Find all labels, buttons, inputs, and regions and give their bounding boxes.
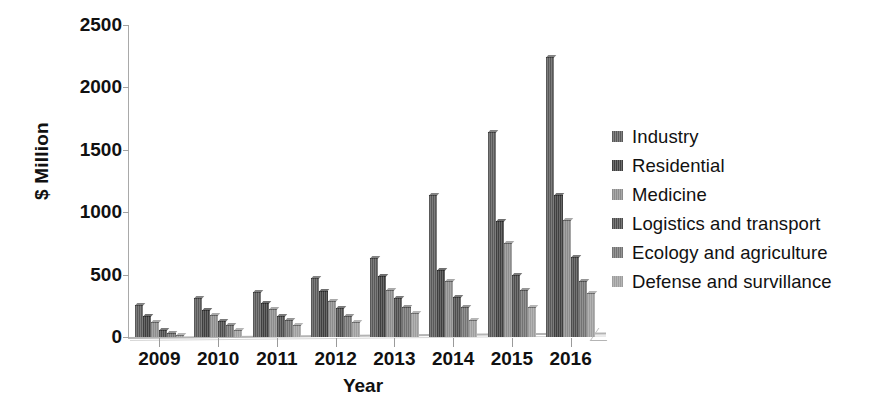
bar-face bbox=[411, 313, 419, 337]
bar-face bbox=[587, 293, 595, 337]
bar-group-2011 bbox=[253, 25, 302, 337]
legend-item: Defense and survillance bbox=[612, 267, 887, 296]
bar bbox=[394, 298, 402, 337]
x-tick-label: 2011 bbox=[256, 348, 297, 370]
legend-swatch-icon bbox=[612, 160, 623, 171]
bar bbox=[311, 278, 319, 337]
bar bbox=[378, 276, 386, 337]
bar-face bbox=[226, 325, 234, 337]
x-axis-title: Year bbox=[128, 375, 598, 397]
bar bbox=[402, 307, 410, 337]
bar-face bbox=[571, 257, 579, 337]
legend-swatch-icon bbox=[612, 218, 623, 229]
bar bbox=[429, 195, 437, 337]
x-tick-label: 2013 bbox=[373, 348, 415, 370]
y-tick-mark bbox=[123, 87, 129, 88]
bar-face bbox=[344, 316, 352, 337]
y-tick-mark bbox=[123, 150, 129, 151]
bar-face bbox=[445, 281, 453, 337]
bar-face bbox=[135, 305, 143, 337]
bar bbox=[437, 270, 445, 337]
x-tick-mark bbox=[277, 338, 278, 347]
bar-face bbox=[488, 132, 496, 337]
y-tick-mark bbox=[123, 212, 129, 213]
x-tick-label: 2009 bbox=[138, 348, 180, 370]
bar-group-2009 bbox=[135, 25, 184, 337]
bar bbox=[226, 325, 234, 337]
x-tick-mark bbox=[512, 338, 513, 347]
legend-swatch-icon bbox=[612, 276, 623, 287]
bar bbox=[135, 305, 143, 337]
bar bbox=[554, 195, 562, 337]
bar-face bbox=[461, 307, 469, 337]
y-tick-mark bbox=[123, 275, 129, 276]
bar-group-2014 bbox=[429, 25, 478, 337]
bar bbox=[234, 330, 242, 337]
bar bbox=[344, 316, 352, 337]
bar-group-2015 bbox=[488, 25, 537, 337]
bar bbox=[352, 322, 360, 337]
bar-face bbox=[453, 297, 461, 337]
bar bbox=[210, 315, 218, 337]
bar-face bbox=[336, 308, 344, 337]
bar bbox=[370, 258, 378, 337]
legend-item: Logistics and transport bbox=[612, 209, 887, 238]
bar-face bbox=[437, 270, 445, 337]
bar-face bbox=[328, 301, 336, 337]
bar-face bbox=[370, 258, 378, 337]
x-tick-mark bbox=[336, 338, 337, 347]
x-tick-label: 2012 bbox=[314, 348, 356, 370]
bar-face bbox=[528, 307, 536, 337]
plot-area bbox=[128, 25, 598, 337]
legend-label: Medicine bbox=[632, 184, 707, 206]
bar-face bbox=[261, 303, 269, 337]
bar-face bbox=[293, 325, 301, 337]
bar-group-2016 bbox=[546, 25, 595, 337]
bar-face bbox=[386, 290, 394, 337]
bar bbox=[386, 290, 394, 337]
bar-face bbox=[554, 195, 562, 337]
bar bbox=[546, 57, 554, 337]
bar bbox=[194, 298, 202, 337]
bar bbox=[277, 316, 285, 337]
y-axis-tick-labels: 05001000150020002500 bbox=[0, 0, 122, 415]
bar-face bbox=[202, 310, 210, 337]
bar bbox=[336, 308, 344, 337]
bar bbox=[328, 301, 336, 337]
bar-face bbox=[319, 291, 327, 337]
bar bbox=[579, 281, 587, 337]
x-axis-tick-labels: 20092010201120122013201420152016 bbox=[128, 337, 608, 377]
bar bbox=[520, 290, 528, 337]
bar bbox=[504, 243, 512, 337]
bar bbox=[461, 307, 469, 337]
x-tick-label: 2010 bbox=[197, 348, 239, 370]
bar bbox=[285, 320, 293, 337]
legend-item: Residential bbox=[612, 151, 887, 180]
legend-swatch-icon bbox=[612, 131, 623, 142]
y-tick-label: 0 bbox=[4, 326, 122, 348]
x-tick-mark bbox=[453, 338, 454, 347]
bar bbox=[469, 320, 477, 337]
legend-label: Industry bbox=[632, 126, 699, 148]
bar-face bbox=[429, 195, 437, 337]
x-tick-mark bbox=[218, 338, 219, 347]
bar bbox=[528, 307, 536, 337]
legend-swatch-icon bbox=[612, 247, 623, 258]
bar-face bbox=[579, 281, 587, 337]
bar bbox=[496, 221, 504, 337]
bar-face bbox=[194, 298, 202, 337]
y-tick-label: 2000 bbox=[4, 76, 122, 98]
bar bbox=[571, 257, 579, 337]
bar-group-2010 bbox=[194, 25, 243, 337]
bar-face bbox=[143, 316, 151, 337]
legend-label: Ecology and agriculture bbox=[632, 242, 828, 264]
bar-face bbox=[504, 243, 512, 337]
bar-face bbox=[285, 320, 293, 337]
legend-item: Medicine bbox=[612, 180, 887, 209]
bar-face bbox=[402, 307, 410, 337]
bar-group-2013 bbox=[370, 25, 419, 337]
x-tick-mark bbox=[394, 338, 395, 347]
bar bbox=[202, 310, 210, 337]
bar bbox=[587, 293, 595, 337]
bar-face bbox=[546, 57, 554, 337]
